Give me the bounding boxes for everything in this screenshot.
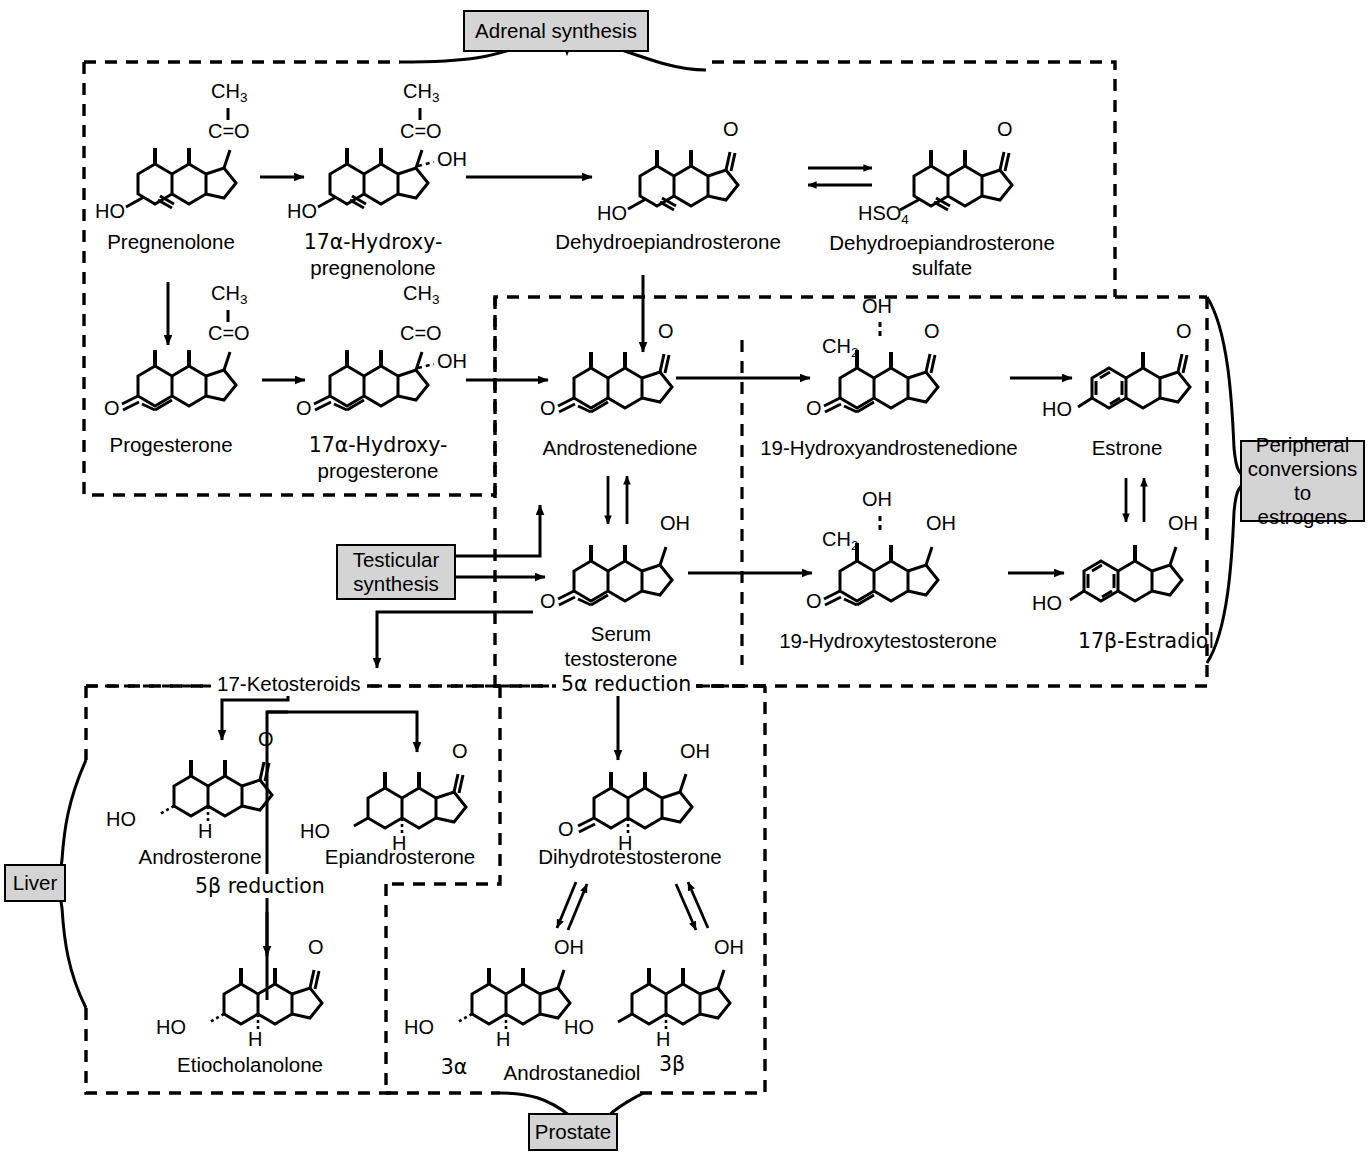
compound-name-pregnenolone: Pregnenolone — [86, 231, 256, 254]
atom-ho-estrone: HO — [1042, 398, 1072, 420]
tag-adrenal-label: Adrenal synthesis — [475, 19, 637, 43]
compound-name-hydroxyandrostenedione: 19-Hydroxyandrostenedione — [744, 437, 1034, 460]
atom-h-androsterone: H — [198, 820, 212, 842]
atom-hso4-dheas: HSO4 — [858, 202, 909, 227]
atom-oh-androstanediol-3a: OH — [554, 936, 584, 958]
tag-peripheral-line3: to estrogens — [1250, 481, 1355, 529]
compound-name-dihydrotestosterone: Dihydrotestosterone — [520, 846, 740, 869]
compound-name-etiocholanolone: Etiocholanolone — [150, 1054, 350, 1077]
atom-o3-androstenedione: O — [540, 397, 556, 419]
atom-ho-hydroxypregnenolone: HO — [287, 200, 317, 222]
compound-name-estradiol: 17β-Estradiol — [1066, 630, 1226, 653]
tag-peripheral-conversions[interactable]: Peripheral conversions to estrogens — [1240, 440, 1365, 522]
atom-ceqo-hydroxypregnenolone: C=O — [400, 120, 442, 142]
atom-ho-epiandrosterone: HO — [300, 820, 330, 842]
atom-ch2-hydroxyandrostenedione: CH2 — [822, 335, 858, 360]
atom-h-androstanediol-3b: H — [656, 1028, 670, 1050]
atom-ho-pregnenolone: HO — [95, 200, 125, 222]
atom-oh-hydroxyprogesterone: OH — [437, 350, 467, 372]
label-17-ketosteroids: 17-Ketosteroids — [212, 672, 366, 696]
compound-name-hydroxyprogesterone-line1: 17α-Hydroxy- — [288, 434, 468, 458]
compound-name-testosterone-line2: testosterone — [538, 647, 704, 671]
atom-ch2-hydroxytestosterone: CH2 — [822, 528, 858, 553]
atom-oh19-hydroxytestosterone: OH — [862, 488, 892, 510]
atom-o-estrone: O — [1176, 320, 1192, 342]
atom-oh-hydroxypregnenolone: OH — [437, 148, 467, 170]
atom-o-progesterone: O — [104, 397, 120, 419]
atom-ceqo-pregnenolone: C=O — [208, 120, 250, 142]
tag-prostate-label: Prostate — [535, 1120, 611, 1144]
atom-ceqo-hydroxyprogesterone: C=O — [400, 322, 442, 344]
atom-ch3-pregnenolone: CH3 — [211, 80, 247, 105]
atom-o-dihydrotestosterone: O — [558, 818, 574, 840]
atom-o17-hydroxyandrostenedione: O — [924, 320, 940, 342]
tag-peripheral-line2: conversions — [1248, 457, 1357, 481]
atom-ho-androstanediol-3a: HO — [404, 1016, 434, 1038]
tag-prostate[interactable]: Prostate — [528, 1113, 618, 1151]
atom-oh17-hydroxytestosterone: OH — [926, 512, 956, 534]
atom-o-androsterone: O — [258, 728, 274, 750]
atom-ho-estradiol: HO — [1032, 592, 1062, 614]
compound-name-hydroxypregnenolone-line2: pregnenolone — [288, 256, 458, 280]
tag-testicular-line1: Testicular — [353, 548, 440, 572]
compound-label-3alpha: 3α — [434, 1056, 474, 1079]
atom-oh-testosterone: OH — [660, 512, 690, 534]
atom-ho-dhea: HO — [597, 202, 627, 224]
atom-o3-hydroxyandrostenedione: O — [806, 397, 822, 419]
compound-name-progesterone: Progesterone — [86, 434, 256, 457]
atom-oh19-hydroxyandrostenedione: OH — [862, 295, 892, 317]
atom-h-androstanediol-3a: H — [496, 1028, 510, 1050]
compound-name-androstanediol: Androstanediol — [482, 1062, 662, 1085]
atom-oh-estradiol: OH — [1168, 512, 1198, 534]
atom-oh-androstanediol-3b: OH — [714, 936, 744, 958]
atom-ch3-hydroxyprogesterone: CH3 — [403, 282, 439, 307]
pathway-diagram: Adrenal synthesis Testicular synthesis P… — [0, 0, 1370, 1159]
atom-o-hydroxyprogesterone: O — [296, 397, 312, 419]
label-5alpha-reduction: 5α reduction — [556, 672, 696, 696]
tag-testicular-line2: synthesis — [353, 572, 438, 596]
atom-o3-hydroxytestosterone: O — [806, 590, 822, 612]
atom-ho-etiocholanolone: HO — [156, 1016, 186, 1038]
compound-name-androstenedione: Androstenedione — [518, 437, 722, 460]
compound-name-dheas-line2: sulfate — [812, 256, 1072, 280]
atom-ceqo-progesterone: C=O — [208, 322, 250, 344]
tag-testicular-synthesis[interactable]: Testicular synthesis — [336, 544, 456, 600]
tag-peripheral-line1: Peripheral — [1256, 433, 1349, 457]
atom-ho-androsterone: HO — [106, 808, 136, 830]
tag-liver-label: Liver — [13, 871, 57, 895]
atom-o-dheas: O — [997, 118, 1013, 140]
atom-ch3-hydroxypregnenolone: CH3 — [403, 80, 439, 105]
compound-name-dhea: Dehydroepiandrosterone — [538, 231, 798, 254]
compound-name-hydroxypregnenolone-line1: 17α-Hydroxy- — [288, 231, 458, 255]
diagram-vector-layer — [0, 0, 1370, 1159]
compound-name-epiandrosterone: Epiandrosterone — [300, 846, 500, 869]
compound-name-hydroxytestosterone: 19-Hydroxytestosterone — [748, 630, 1028, 653]
atom-h-etiocholanolone: H — [248, 1028, 262, 1050]
tag-adrenal-synthesis[interactable]: Adrenal synthesis — [463, 10, 649, 52]
compound-name-dheas-line1: Dehydroepiandrosterone — [812, 231, 1072, 255]
atom-ho-androstanediol-3b: HO — [564, 1016, 594, 1038]
atom-o17-androstenedione: O — [658, 320, 674, 342]
compound-label-3beta: 3β — [652, 1053, 692, 1076]
compound-name-hydroxyprogesterone-line2: progesterone — [288, 459, 468, 483]
atom-o-testosterone: O — [540, 590, 556, 612]
compound-name-estrone: Estrone — [1062, 437, 1192, 460]
atom-oh-dihydrotestosterone: OH — [680, 740, 710, 762]
tag-liver[interactable]: Liver — [4, 864, 66, 902]
atom-o-etiocholanolone: O — [308, 936, 324, 958]
atom-o-epiandrosterone: O — [452, 740, 468, 762]
atom-ch3-progesterone: CH3 — [211, 282, 247, 307]
compound-name-androsterone: Androsterone — [110, 846, 290, 869]
compound-name-testosterone-line1: Serum — [538, 622, 704, 646]
label-5beta-reduction: 5β reduction — [190, 874, 330, 898]
atom-o-dhea: O — [723, 118, 739, 140]
